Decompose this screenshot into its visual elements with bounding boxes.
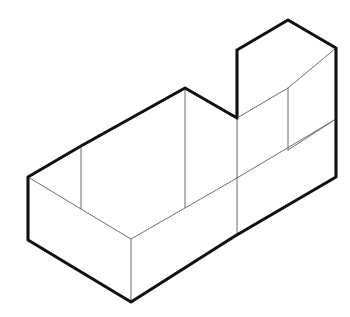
isometric-figure-canvas: Isometric cube stack figure An L-shaped …	[0, 0, 350, 317]
isometric-cube-drawing: Isometric cube stack figure An L-shaped …	[0, 0, 350, 317]
